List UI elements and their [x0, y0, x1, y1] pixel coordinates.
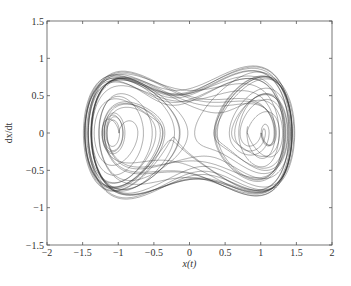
x-tick-label: −1 — [113, 247, 124, 258]
y-tick-label: −1 — [33, 202, 44, 213]
x-tick-label: 1 — [258, 247, 263, 258]
x-tick-label: 0.5 — [219, 247, 232, 258]
y-tick-label: 0 — [39, 128, 44, 139]
x-axis-title: x(t) — [182, 258, 198, 270]
y-tick-label: −1.5 — [26, 240, 44, 251]
x-tick-label: 0 — [187, 247, 192, 258]
y-tick-label: 1 — [39, 53, 44, 64]
x-tick-label: 1.5 — [290, 247, 303, 258]
y-tick-label: 1.5 — [32, 16, 45, 27]
y-tick-label: 0.5 — [32, 90, 45, 101]
x-tick-label: −1.5 — [74, 247, 92, 258]
y-tick-label: −0.5 — [26, 165, 44, 176]
phase-plot: −2−1.5−1−0.500.511.52 −1.5−1−0.500.511.5… — [0, 0, 351, 286]
x-tick-label: 2 — [330, 247, 335, 258]
x-tick-label: −0.5 — [145, 247, 163, 258]
y-axis-title: dx/dt — [3, 123, 14, 144]
